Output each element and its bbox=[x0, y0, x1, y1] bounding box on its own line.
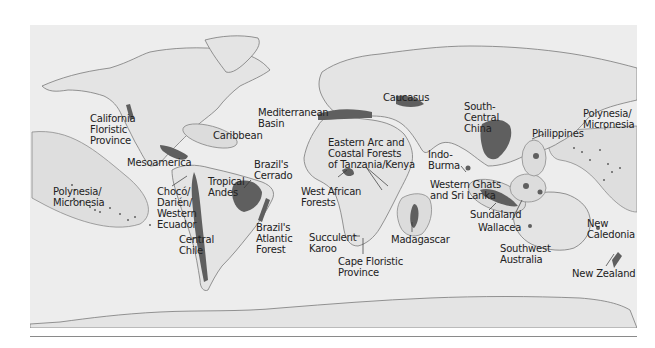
label-new-caledonia: New Caledonia bbox=[587, 218, 635, 240]
label-succulent-karoo: Succulent Karoo bbox=[309, 232, 356, 254]
world-map-frame bbox=[30, 25, 637, 328]
label-south-central-china: South- Central China bbox=[464, 101, 499, 134]
label-madagascar: Madagascar bbox=[391, 234, 450, 245]
label-southwest-australia: Southwest Australia bbox=[500, 243, 551, 265]
bottom-divider bbox=[30, 336, 637, 337]
label-brazil-cerrado: Brazil's Cerrado bbox=[254, 159, 292, 181]
label-eastern-arc: Eastern Arc and Coastal Forests of Tanza… bbox=[328, 137, 415, 170]
label-new-zealand: New Zealand bbox=[572, 268, 636, 279]
label-wallacea: Wallacea bbox=[478, 222, 521, 233]
label-western-ghats: Western Ghats and Sri Lanka bbox=[430, 179, 501, 201]
label-caucasus: Caucasus bbox=[383, 92, 429, 103]
label-central-chile: Central Chile bbox=[179, 234, 214, 256]
label-tropical-andes: Tropical Andes bbox=[208, 176, 245, 198]
label-philippines: Philippines bbox=[532, 128, 584, 139]
label-mesoamerica: Mesoamerica bbox=[127, 157, 191, 168]
label-polynesia-west: Polynesia/ Micronesia bbox=[53, 186, 105, 208]
label-west-african: West African Forests bbox=[301, 186, 361, 208]
label-sundaland: Sundaland bbox=[470, 209, 521, 220]
label-caribbean: Caribbean bbox=[213, 130, 263, 141]
label-cape-floristic: Cape Floristic Province bbox=[338, 256, 403, 278]
label-mediterranean: Mediterranean Basin bbox=[258, 107, 329, 129]
label-california: California Floristic Province bbox=[90, 113, 136, 146]
hotspot-sri-lanka bbox=[466, 166, 471, 171]
label-brazil-atlantic: Brazil's Atlantic Forest bbox=[256, 222, 292, 255]
world-map bbox=[30, 25, 637, 328]
label-choco: Chocó/ Darién/ Western Ecuador bbox=[157, 186, 197, 230]
label-indo-burma: Indo- Burma bbox=[428, 149, 460, 171]
label-polynesia-east: Polynesia/ Micronesia bbox=[583, 108, 635, 130]
